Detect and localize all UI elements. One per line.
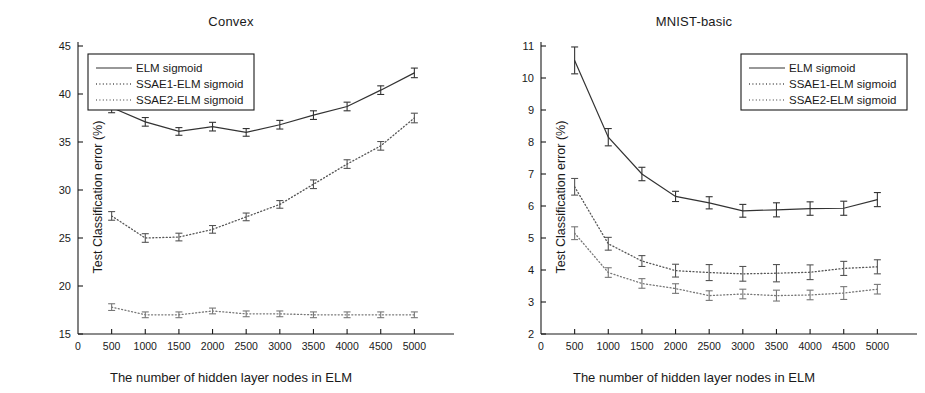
x-tick-label: 1500: [167, 340, 191, 352]
error-bar: [571, 178, 578, 195]
x-tick-label: 3500: [765, 340, 789, 352]
x-tick-label: 4000: [798, 340, 822, 352]
chart-panel-convex: Convex Test Classification error (%) 152…: [0, 0, 462, 393]
y-tick-label: 35: [59, 136, 71, 148]
x-tick-label: 3500: [302, 340, 326, 352]
x-tick-label: 2000: [664, 340, 688, 352]
y-tick-label: 40: [59, 88, 71, 100]
error-bar: [411, 113, 418, 123]
y-tick-label: 5: [528, 232, 534, 244]
error-bar: [411, 68, 418, 78]
y-tick-label: 9: [528, 104, 534, 116]
error-bar: [411, 312, 418, 318]
x-tick-label: 2500: [235, 340, 259, 352]
y-tick-label: 45: [59, 40, 71, 52]
x-tick-label: 4000: [335, 340, 359, 352]
x-tick-label: 1500: [630, 340, 654, 352]
y-tick-label: 6: [528, 200, 534, 212]
legend-label-0: ELM sigmoid: [789, 62, 855, 74]
y-tick-label: 4: [528, 264, 534, 276]
series-line-1: [575, 187, 878, 274]
error-bar: [638, 167, 645, 180]
x-tick-label: 3000: [268, 340, 292, 352]
y-tick-label: 8: [528, 136, 534, 148]
error-bar: [243, 213, 250, 221]
legend-label-0: ELM sigmoid: [136, 62, 202, 74]
x-tick-label: 4500: [369, 340, 393, 352]
y-tick-label: 25: [59, 232, 71, 244]
error-bar: [571, 227, 578, 240]
error-bar: [142, 234, 149, 243]
legend-label-2: SSAE2-ELM sigmoid: [136, 94, 243, 106]
error-bar: [874, 284, 881, 294]
plot-area-right: 2345678910110500100015002000250030003500…: [463, 0, 925, 393]
x-tick-label: 4500: [832, 340, 856, 352]
series-line-1: [112, 118, 415, 238]
error-bar: [377, 86, 384, 95]
error-bar: [571, 47, 578, 74]
y-tick-label: 30: [59, 184, 71, 196]
y-tick-label: 10: [522, 72, 534, 84]
y-tick-label: 3: [528, 296, 534, 308]
x-tick-label: 500: [566, 340, 584, 352]
error-bar: [310, 111, 317, 120]
x-tick-label: 5000: [866, 340, 890, 352]
x-axis-label-left: The number of hidden layer nodes in ELM: [0, 370, 462, 385]
y-tick-label: 2: [528, 328, 534, 340]
error-bar: [108, 212, 115, 221]
y-tick-label: 20: [59, 280, 71, 292]
y-tick-label: 15: [59, 328, 71, 340]
x-tick-label: 1000: [134, 340, 158, 352]
plot-area-left: 1520253035404505001000150020002500300035…: [0, 0, 462, 393]
error-bar: [874, 193, 881, 207]
series-line-2: [575, 233, 878, 295]
error-bar: [276, 201, 283, 209]
x-tick-label: 0: [75, 340, 81, 352]
error-bar: [638, 256, 645, 267]
legend-label-2: SSAE2-ELM sigmoid: [789, 94, 896, 106]
x-tick-label: 5000: [403, 340, 427, 352]
x-tick-label: 2500: [698, 340, 722, 352]
error-bar: [108, 304, 115, 311]
x-tick-label: 2000: [201, 340, 225, 352]
error-bar: [672, 264, 679, 277]
x-tick-label: 500: [103, 340, 121, 352]
x-tick-label: 1000: [597, 340, 621, 352]
x-tick-label: 0: [538, 340, 544, 352]
error-bar: [310, 180, 317, 189]
error-bar: [142, 118, 149, 127]
y-tick-label: 11: [523, 40, 534, 52]
error-bar: [377, 142, 384, 151]
y-tick-label: 7: [528, 168, 534, 180]
x-axis-label-right: The number of hidden layer nodes in ELM: [463, 370, 925, 385]
chart-panel-mnist-basic: MNIST-basic Test Classification error (%…: [463, 0, 925, 393]
error-bar: [344, 160, 351, 169]
x-tick-label: 3000: [731, 340, 755, 352]
series-line-2: [112, 307, 415, 315]
legend-label-1: SSAE1-ELM sigmoid: [136, 78, 243, 90]
figure-sheet: Convex Test Classification error (%) 152…: [0, 0, 925, 393]
legend-label-1: SSAE1-ELM sigmoid: [789, 78, 896, 90]
error-bar: [344, 102, 351, 111]
error-bar: [874, 260, 881, 274]
